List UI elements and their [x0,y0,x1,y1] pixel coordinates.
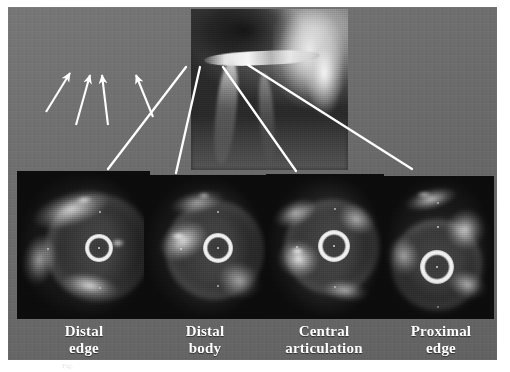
coronary-angiogram-image [191,9,348,170]
ivus-label-distal-body: Distal body [146,323,264,357]
ivus-vignette [384,176,494,319]
ivus-vignette [266,174,384,319]
figure-gray-plate: Distal edge Distal body Central articula… [8,7,497,360]
ivus-panel-proximal-edge [384,176,494,319]
ivus-image-proximal-edge [384,176,494,319]
ivus-image-distal-edge [17,171,150,319]
ivus-label-central-articulation: Central articulation [262,323,386,357]
angiogram-arrow-distal-body [76,75,90,125]
ivus-image-central-articulation [266,174,384,319]
caption-remnant: Fig. [62,363,132,369]
ivus-vignette [144,175,266,319]
ivus-image-distal-body [144,175,266,319]
ivus-panel-distal-edge [17,171,150,319]
angiogram-noise-texture [191,9,348,170]
ivus-label-proximal-edge: Proximal edge [386,323,496,357]
angiogram-arrow-central-articulation [102,75,108,125]
ivus-vignette [17,171,150,319]
angiogram-arrow-proximal-edge [136,75,153,117]
leader-line-distal-edge [108,67,186,169]
ivus-panel-central-articulation [266,174,384,319]
angiogram-arrow-distal-edge [46,73,70,112]
ivus-label-distal-edge: Distal edge [22,323,146,357]
figure-root: Distal edge Distal body Central articula… [0,0,510,372]
ivus-panel-distal-body [144,175,266,319]
